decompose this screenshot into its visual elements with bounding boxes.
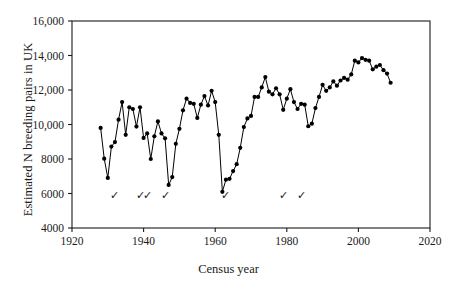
data-point <box>249 114 253 118</box>
data-point <box>242 125 246 129</box>
data-point <box>260 85 264 89</box>
data-point <box>292 100 296 104</box>
y-tick-label: 8000 <box>41 153 64 165</box>
data-point <box>245 116 249 120</box>
data-point <box>274 86 278 90</box>
data-point <box>199 103 203 107</box>
data-point <box>99 126 103 130</box>
data-point <box>181 108 185 112</box>
data-point <box>371 67 375 71</box>
data-point <box>238 146 242 150</box>
plot-area: 40006000800010,00012,00014,00016,000 192… <box>0 0 457 286</box>
data-point <box>306 124 310 128</box>
data-point <box>170 175 174 179</box>
x-tick-label: 2020 <box>419 235 442 247</box>
data-point <box>270 92 274 96</box>
x-tick-label: 1980 <box>275 235 298 247</box>
y-tick-label: 12,000 <box>32 84 64 97</box>
y-tick-label: 4000 <box>41 222 64 234</box>
data-point <box>142 136 146 140</box>
data-point <box>295 107 299 111</box>
data-point <box>278 92 282 96</box>
data-point <box>378 63 382 67</box>
data-point <box>360 56 364 60</box>
data-point <box>353 59 357 63</box>
data-point-markers <box>99 56 393 194</box>
data-point <box>374 65 378 69</box>
data-point <box>127 105 131 109</box>
data-point <box>267 90 271 94</box>
data-point <box>120 100 124 104</box>
y-tick-label: 14,000 <box>32 50 64 63</box>
checkmark-icon: ✓ <box>221 189 230 201</box>
data-point <box>167 183 171 187</box>
data-point <box>346 78 350 82</box>
data-point <box>145 131 149 135</box>
data-point <box>328 85 332 89</box>
data-point <box>156 119 160 123</box>
data-point <box>389 81 393 85</box>
data-point <box>342 76 346 80</box>
checkmark-icon: ✓ <box>297 189 306 201</box>
data-point <box>285 97 289 101</box>
data-point <box>303 103 307 107</box>
data-point <box>321 83 325 87</box>
data-point <box>256 95 260 99</box>
y-tick-label: 10,000 <box>32 119 64 132</box>
data-point <box>263 75 267 79</box>
data-point <box>252 95 256 99</box>
data-point <box>349 72 353 76</box>
chart-figure: Estimated N breeding pairs in UK Census … <box>0 0 457 286</box>
data-point <box>235 162 239 166</box>
data-point <box>385 72 389 76</box>
x-tick-label: 1940 <box>132 235 155 247</box>
data-point <box>124 133 128 137</box>
data-point <box>310 122 314 126</box>
data-point <box>317 95 321 99</box>
data-point <box>299 102 303 106</box>
checkmark-icon: ✓ <box>143 189 152 201</box>
data-point <box>177 127 181 131</box>
y-tick-label: 16,000 <box>32 15 64 28</box>
data-point <box>131 107 135 111</box>
data-point <box>231 169 235 173</box>
data-point <box>192 102 196 106</box>
checkmark-icon: ✓ <box>279 189 288 201</box>
data-point <box>227 177 231 181</box>
data-point <box>210 89 214 93</box>
data-point <box>288 87 292 91</box>
data-point <box>184 97 188 101</box>
data-point <box>149 157 153 161</box>
data-point <box>134 124 138 128</box>
data-point <box>381 68 385 72</box>
checkmark-icon: ✓ <box>161 189 170 201</box>
data-point <box>213 100 217 104</box>
data-point <box>367 59 371 63</box>
data-point <box>331 79 335 83</box>
y-tick-label: 6000 <box>41 188 64 200</box>
data-point <box>313 106 317 110</box>
data-point <box>102 157 106 161</box>
y-axis-ticks: 40006000800010,00012,00014,00016,000 <box>32 15 72 234</box>
data-point <box>206 103 210 107</box>
data-point <box>217 133 221 137</box>
data-point <box>195 116 199 120</box>
data-point <box>202 94 206 98</box>
data-point <box>113 140 117 144</box>
data-point <box>109 144 113 148</box>
plot-frame <box>72 21 430 228</box>
data-point <box>138 105 142 109</box>
data-point <box>338 78 342 82</box>
data-point <box>363 58 367 62</box>
data-point <box>159 131 163 135</box>
checkmark-annotations: ✓✓✓✓✓✓✓ <box>110 189 305 201</box>
data-point <box>324 89 328 93</box>
checkmark-icon: ✓ <box>110 189 119 201</box>
data-point <box>152 134 156 138</box>
data-point <box>106 176 110 180</box>
data-point <box>163 136 167 140</box>
data-point <box>281 108 285 112</box>
data-point <box>335 84 339 88</box>
data-point <box>224 178 228 182</box>
x-tick-label: 2000 <box>347 235 370 247</box>
